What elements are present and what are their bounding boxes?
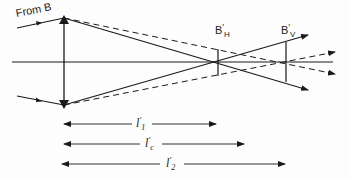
label-sub: V: [290, 30, 295, 39]
label-sub: c: [150, 143, 154, 152]
distance-label-l1: l′1: [136, 117, 145, 132]
image-label-h: B′H: [215, 25, 230, 39]
astigmatism-diagram: From B B′H B′V l′1 l′c l′2: [0, 0, 350, 179]
label-sub: 2: [171, 163, 175, 172]
label-sub: 1: [141, 123, 145, 132]
label-prime: ′: [288, 22, 290, 32]
distance-label-l2: l′2: [166, 157, 175, 172]
distance-label-lc: l′c: [145, 137, 154, 152]
label-prime: ′: [222, 22, 224, 32]
label-sub: H: [224, 30, 230, 39]
image-label-v: B′V: [281, 25, 295, 39]
optics-drawing: [0, 0, 350, 179]
